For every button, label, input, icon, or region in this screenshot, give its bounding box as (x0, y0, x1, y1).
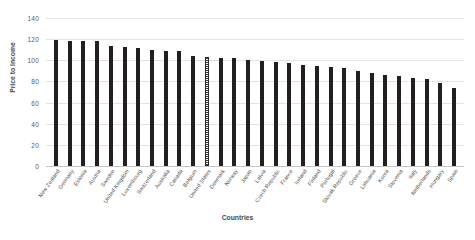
bar-slot (228, 18, 242, 166)
bar-slot (337, 18, 351, 166)
bar-new-zealand (54, 40, 58, 166)
bar-belgium (191, 56, 195, 166)
bar-hungary (438, 83, 442, 167)
bar-slot (282, 18, 296, 166)
x-tick-label: New Zealand (37, 168, 61, 198)
bar-sweden (109, 46, 113, 167)
bar-ireland (301, 65, 305, 166)
x-label-slot: Hungary (434, 167, 448, 213)
x-label-slot: Norway (228, 167, 242, 213)
bar-finland (315, 66, 319, 166)
x-label-slot: Switzerland (145, 167, 159, 213)
x-label-slot: Netherlands (420, 167, 434, 213)
bar-slot (379, 18, 393, 166)
y-tick-40: 40 (31, 120, 39, 127)
x-tick-label: Italy (407, 168, 418, 180)
x-label-slot: Austria (90, 167, 104, 213)
bar-slot (145, 18, 159, 166)
x-label-slot: Finland (310, 167, 324, 213)
bar-canada (177, 51, 181, 166)
x-label-slot: France (282, 167, 296, 213)
bar-slot (159, 18, 173, 166)
price-to-income-bar-chart: Price to Income 020406080100120140 New Z… (0, 0, 475, 240)
bar-slot (255, 18, 269, 166)
bar-slot (324, 18, 338, 166)
bar-slot (365, 18, 379, 166)
bar-slot (49, 18, 63, 166)
x-label-slot: Slovenia (392, 167, 406, 213)
bar-estonia (81, 41, 85, 166)
x-label-slot: Czech Republic (269, 167, 283, 213)
bar-slot (269, 18, 283, 166)
x-label-slot: Germany (63, 167, 77, 213)
x-label-slot: Lithuania (365, 167, 379, 213)
x-label-slot: Denmark (214, 167, 228, 213)
bar-slovak-republic (342, 68, 346, 166)
x-tick-label: France (279, 168, 294, 186)
bar-slot (214, 18, 228, 166)
bar-slot (186, 18, 200, 166)
x-axis-tick-labels: New ZealandGermanyEstoniaAustriaSwedenUn… (46, 167, 464, 213)
bar-slot (76, 18, 90, 166)
bar-slot (310, 18, 324, 166)
x-label-slot: Spain (447, 167, 461, 213)
bar-austria (95, 41, 99, 166)
bar-switzerland (150, 50, 154, 166)
bar-slot (173, 18, 187, 166)
x-label-slot: Ireland (296, 167, 310, 213)
bar-latvia (260, 61, 264, 166)
bar-slot (447, 18, 461, 166)
x-tick-label: Spain (446, 168, 459, 183)
bar-slot (351, 18, 365, 166)
y-tick-100: 100 (28, 57, 39, 64)
bar-slot (118, 18, 132, 166)
bar-slot (434, 18, 448, 166)
bar-slot (420, 18, 434, 166)
bar-slot (241, 18, 255, 166)
bar-norway (232, 58, 236, 166)
bar-slot (63, 18, 77, 166)
y-tick-0: 0 (35, 163, 39, 170)
bar-slot (90, 18, 104, 166)
y-tick-80: 80 (31, 78, 39, 85)
x-label-slot: Japan (241, 167, 255, 213)
bar-czech-republic (274, 62, 278, 166)
x-label-slot: Canada (173, 167, 187, 213)
bar-portugal (329, 67, 333, 166)
bar-slot (392, 18, 406, 166)
x-label-slot: United States (200, 167, 214, 213)
x-tick-label: Japan (239, 168, 253, 184)
bar-united-kingdom (123, 47, 127, 166)
plot-area (46, 18, 464, 166)
bar-greece (356, 71, 360, 166)
bar-italy (411, 78, 415, 166)
bar-series (46, 18, 464, 166)
bar-france (287, 63, 291, 166)
bar-lithuania (370, 73, 374, 166)
y-tick-120: 120 (28, 36, 39, 43)
bar-spain (452, 88, 456, 166)
bar-slot (406, 18, 420, 166)
bar-germany (68, 41, 72, 166)
bar-japan (246, 60, 250, 166)
x-axis-title: Countries (0, 214, 475, 221)
y-tick-140: 140 (28, 15, 39, 22)
bar-slovenia (397, 76, 401, 166)
bar-korea (383, 75, 387, 166)
y-tick-60: 60 (31, 99, 39, 106)
bar-denmark (219, 58, 223, 166)
x-label-slot: Estonia (76, 167, 90, 213)
x-label-slot: Slovak Republic (337, 167, 351, 213)
x-tick-label: Latvia (253, 168, 267, 184)
bar-slot (131, 18, 145, 166)
bar-slot (200, 18, 214, 166)
x-label-slot: Korea (379, 167, 393, 213)
bar-netherlands (425, 79, 429, 166)
x-label-slot: Australia (159, 167, 173, 213)
y-tick-20: 20 (31, 141, 39, 148)
bar-slot (104, 18, 118, 166)
y-axis-tick-labels: 020406080100120140 (0, 18, 44, 166)
bar-united-states (205, 57, 209, 166)
bar-australia (164, 51, 168, 166)
bar-slot (296, 18, 310, 166)
